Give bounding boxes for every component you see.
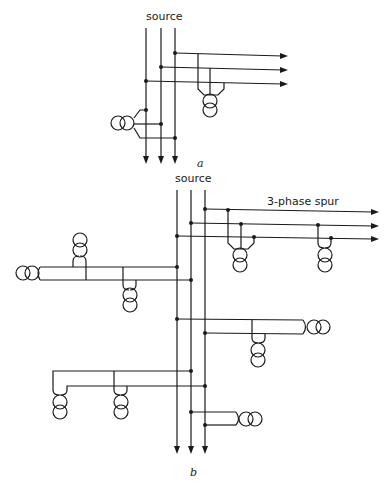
diagram-canvas: source (0, 0, 391, 487)
caption-b: b (190, 466, 197, 479)
caption-a: a (197, 157, 204, 170)
transformer-icon (198, 54, 224, 117)
source-busbars-a (143, 28, 178, 164)
transformer-icon (111, 108, 177, 140)
single-phase-branch-right (175, 317, 330, 367)
panel-b: source 3-phase spur (16, 172, 379, 479)
source-label-a: source (146, 10, 183, 23)
three-phase-spur (175, 207, 379, 242)
panel-a: source (111, 10, 288, 170)
single-phase-branch-left-lower (53, 369, 207, 419)
three-phase-branch-a (144, 51, 288, 87)
transformer-icon (226, 208, 256, 272)
spur-label: 3-phase spur (267, 195, 339, 208)
source-label-b: source (175, 172, 212, 185)
transformer-icon (316, 223, 333, 272)
single-phase-branch-left-upper (16, 233, 193, 312)
single-phase-branch-bottom-right (189, 410, 262, 427)
source-busbars-b (174, 190, 208, 454)
